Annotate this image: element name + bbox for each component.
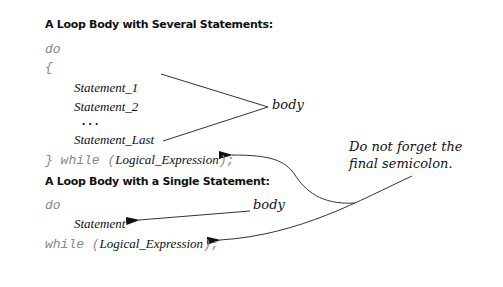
while-prefix-2: while ( — [45, 237, 100, 252]
body-arrow-2 — [139, 211, 250, 220]
section1-title: A Loop Body with Several Statements: — [45, 18, 273, 31]
annotation-line-1: Do not forget the — [349, 139, 462, 154]
body-label-1: body — [272, 97, 304, 112]
ellipsis: . . . — [82, 113, 98, 129]
open-brace: { — [45, 60, 53, 75]
body-bracket-lines — [161, 74, 268, 141]
statement-last: Statement_Last — [74, 132, 154, 148]
body-label-2: body — [253, 197, 285, 212]
while-line-2: while (Logical_Expression); — [45, 234, 219, 252]
annotation-line-2: final semicolon. — [349, 156, 453, 171]
while-line-1: } while (Logical_Expression); — [45, 150, 234, 168]
while-prefix: } while ( — [45, 153, 115, 168]
statement-single: Statement — [74, 216, 125, 232]
condition-2: Logical_Expression — [100, 236, 204, 251]
while-suffix-2: ); — [203, 237, 219, 252]
section2-title: A Loop Body with a Single Statement: — [45, 175, 269, 188]
do-keyword: do — [45, 42, 61, 57]
do-keyword-2: do — [45, 198, 61, 213]
condition: Logical_Expression — [115, 152, 219, 167]
while-suffix: ); — [219, 153, 235, 168]
statement-1: Statement_1 — [74, 80, 138, 96]
